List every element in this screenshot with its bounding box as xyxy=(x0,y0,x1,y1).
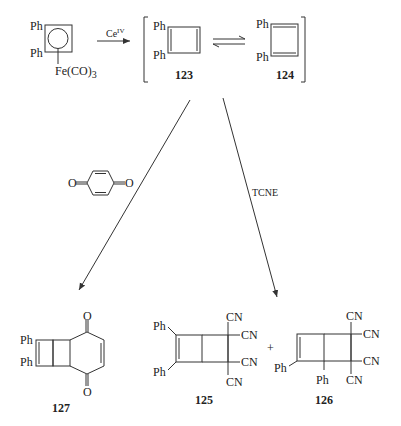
oxygen-label: O xyxy=(68,176,77,190)
compound-label-126: 126 xyxy=(315,393,333,407)
ph-label: Ph xyxy=(153,365,166,379)
cn-label: CN xyxy=(241,355,258,369)
product-126: Ph Ph CN CN CN CN 126 xyxy=(274,309,380,407)
oxygen-label: O xyxy=(83,309,92,323)
product-127: O O Ph Ph 127 xyxy=(20,309,104,415)
right-bracket xyxy=(301,17,305,82)
product-125: Ph Ph CN CN CN CN 125 xyxy=(153,310,258,407)
ph-label: Ph xyxy=(256,50,269,64)
cn-label: CN xyxy=(241,328,258,342)
cn-label: CN xyxy=(226,375,243,389)
ph-label: Ph xyxy=(30,46,43,60)
starting-complex: Ph Ph Fe(CO)3 xyxy=(30,19,97,80)
compound-label-124: 124 xyxy=(276,68,294,82)
cn-label: CN xyxy=(346,373,363,387)
fe-co-label: Fe(CO)3 xyxy=(55,64,97,80)
plus-sign: + xyxy=(267,341,274,355)
equilibrium-arrows xyxy=(213,36,245,47)
reagent-tcne: TCNE xyxy=(252,187,278,198)
ph-label: Ph xyxy=(256,17,269,31)
ph-label: Ph xyxy=(153,48,166,62)
cn-label: CN xyxy=(363,354,380,368)
cn-label: CN xyxy=(363,327,380,341)
ph-label: Ph xyxy=(153,319,166,333)
ph-label: Ph xyxy=(153,19,166,33)
left-bracket xyxy=(144,17,148,82)
cn-label: CN xyxy=(346,309,363,323)
intermediate-124: Ph Ph 124 xyxy=(256,17,298,82)
reagent-ce: CeIV xyxy=(106,27,125,39)
aromatic-circle-icon xyxy=(48,29,68,49)
ph-label: Ph xyxy=(20,333,33,347)
benzoquinone-reagent: O O xyxy=(68,171,134,195)
ph-label: Ph xyxy=(30,19,43,33)
intermediate-123: Ph Ph 123 xyxy=(153,19,200,82)
ph-label: Ph xyxy=(20,355,33,369)
compound-label-125: 125 xyxy=(195,393,213,407)
reaction-scheme: Ph Ph Fe(CO)3 CeIV Ph Ph 123 Ph Ph 124 xyxy=(0,0,401,426)
ce-arrow: CeIV xyxy=(97,27,130,41)
ph-label: Ph xyxy=(274,361,287,375)
compound-label-127: 127 xyxy=(52,401,70,415)
cn-label: CN xyxy=(226,310,243,324)
oxygen-label: O xyxy=(83,385,92,399)
ph-label: Ph xyxy=(316,373,329,387)
oxygen-label: O xyxy=(125,176,134,190)
compound-label-123: 123 xyxy=(175,68,193,82)
